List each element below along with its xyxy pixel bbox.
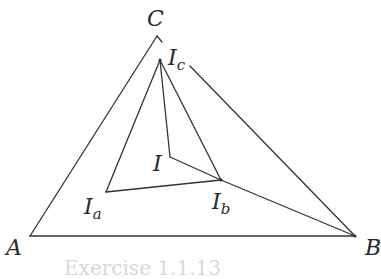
segment-c-b-upper: [157, 36, 162, 42]
vertex-dot-b: [353, 234, 356, 237]
label-ic-sub: c: [177, 56, 185, 74]
label-ib-sub: b: [221, 200, 231, 218]
vertex-dot-ic: [158, 58, 161, 61]
figure-caption: Exercise 1.1.13: [64, 258, 221, 278]
label-i-text: I: [153, 151, 162, 176]
label-c: C: [147, 8, 164, 30]
label-ic: Ic: [168, 47, 185, 73]
label-ib-text: I: [212, 189, 221, 214]
vertex-dot-ib: [219, 178, 222, 181]
label-c-text: C: [147, 6, 164, 31]
label-i: I: [153, 153, 162, 175]
label-ia-sub: a: [93, 205, 102, 223]
segment-ib-b: [221, 180, 355, 236]
segment-ia-ib: [106, 180, 221, 192]
label-ic-text: I: [168, 45, 177, 70]
segment-i-ib: [170, 157, 221, 180]
label-a-text: A: [6, 235, 22, 260]
label-a: A: [6, 237, 22, 259]
label-ia: Ia: [84, 196, 102, 222]
segment-ic-ia: [106, 60, 160, 192]
label-b-text: B: [365, 235, 381, 260]
label-b: B: [365, 237, 381, 259]
segment-ic-i: [160, 60, 170, 157]
segment-ic-ib: [160, 60, 221, 180]
label-ia-text: I: [84, 194, 93, 219]
label-ib: Ib: [212, 191, 230, 217]
